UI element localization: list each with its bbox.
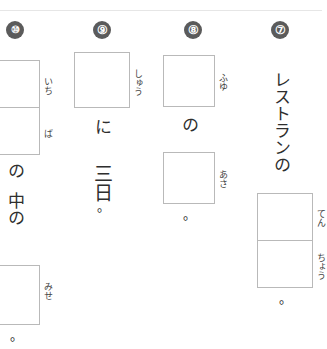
question-column-7: ⑦ レストランの てん ちょう 。 (240, 0, 322, 349)
period-7: 。 (278, 292, 292, 305)
period-8: 。 (182, 208, 196, 221)
answer-box-7-2[interactable] (257, 240, 313, 288)
question-column-9: ⑨ しゅう に 三日 。 (70, 0, 150, 349)
furigana-8-2: あさ (217, 163, 229, 195)
text-10-no-1: の (4, 162, 26, 179)
question-number-badge-7: ⑦ (271, 21, 289, 39)
answer-box-7-1[interactable] (257, 193, 313, 241)
answer-box-10-1[interactable] (0, 60, 40, 108)
furigana-10-1: いち (42, 66, 54, 106)
period-10: 。 (9, 329, 23, 342)
answer-box-10-2[interactable] (0, 107, 40, 155)
furigana-8-1: ふゆ (217, 64, 229, 100)
answer-box-9-1[interactable] (74, 52, 130, 108)
question-number-badge-9: ⑨ (93, 21, 111, 39)
furigana-10-3: みせ (42, 276, 54, 306)
furigana-9-1: しゅう (132, 62, 144, 102)
text-10-nakano: 中の (4, 192, 26, 226)
furigana-7-1: てん (315, 203, 327, 233)
question-number-badge-10: ⑩ (6, 21, 24, 39)
answer-box-8-1[interactable] (163, 55, 215, 107)
question-column-10: ⑩ いち ば の 中の みせ 。 (0, 0, 70, 349)
text-9-particle-ni: に (91, 118, 113, 135)
text-7-restaurant-no: レストランの (268, 52, 292, 192)
question-number-badge-8: ⑧ (184, 21, 202, 39)
furigana-10-2: ば (42, 123, 54, 143)
answer-box-10-3[interactable] (0, 265, 40, 325)
question-column-8: ⑧ ふゆ の あさ 。 (150, 0, 240, 349)
text-8-no: の (178, 116, 200, 133)
furigana-7-2: ちょう (315, 248, 327, 284)
answer-box-8-2[interactable] (163, 152, 215, 204)
period-9: 。 (96, 200, 110, 213)
